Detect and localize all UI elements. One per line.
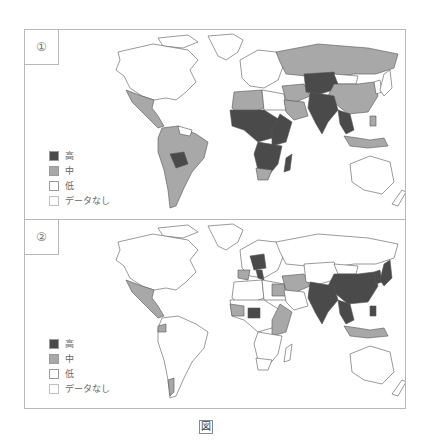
legend-label-low: 低 xyxy=(65,367,74,380)
indonesia xyxy=(344,326,388,338)
swatch-high xyxy=(49,339,59,349)
mongolia xyxy=(334,264,358,274)
swatch-no-data xyxy=(49,384,59,394)
south-america xyxy=(158,126,208,208)
legend-item-high: 高 xyxy=(49,148,110,163)
legend-2: 高 中 低 データなし xyxy=(49,336,110,396)
world-map-1 xyxy=(58,30,405,218)
new-zealand xyxy=(392,380,405,396)
australia xyxy=(350,346,394,384)
legend-item-high: 高 xyxy=(49,336,110,351)
panel-label-2: ② xyxy=(25,220,59,255)
legend-label-medium: 中 xyxy=(65,164,74,177)
legend-item-low: 低 xyxy=(49,178,110,193)
greenland xyxy=(208,34,243,60)
south-africa xyxy=(256,168,272,180)
panel-label-1: ① xyxy=(25,30,59,65)
legend-item-no-data: データなし xyxy=(49,381,110,396)
figure-caption: 図 xyxy=(199,420,213,434)
world-map-2 xyxy=(58,220,405,408)
swatch-no-data xyxy=(49,196,59,206)
new-zealand xyxy=(392,190,405,206)
legend-1: 高 中 低 データなし xyxy=(49,148,110,208)
legend-item-no-data: データなし xyxy=(49,193,110,208)
chile-south xyxy=(168,378,174,396)
swatch-high xyxy=(49,151,59,161)
legend-label-no-data: データなし xyxy=(65,194,110,207)
russia xyxy=(276,44,398,78)
legend-label-high: 高 xyxy=(65,149,74,162)
legend-label-high: 高 xyxy=(65,337,74,350)
nigeria xyxy=(248,308,260,318)
legend-label-no-data: データなし xyxy=(65,382,110,395)
indonesia xyxy=(344,136,388,148)
south-asia xyxy=(308,282,338,324)
mongolia xyxy=(334,74,358,84)
swatch-medium xyxy=(49,166,59,176)
arabian-peninsula xyxy=(284,290,308,310)
legend-item-low: 低 xyxy=(49,366,110,381)
arabian-peninsula xyxy=(284,100,308,120)
legend-item-medium: 中 xyxy=(49,163,110,178)
philippines xyxy=(370,306,376,316)
map-panel-2: ② xyxy=(24,219,406,409)
west-africa-coast xyxy=(230,304,244,316)
egypt-libya xyxy=(262,90,286,110)
greenland xyxy=(208,224,243,250)
philippines xyxy=(370,116,376,126)
swatch-low xyxy=(49,369,59,379)
iberia xyxy=(238,270,250,280)
japan xyxy=(380,260,392,286)
swatch-medium xyxy=(49,354,59,364)
map-panel-1: ① xyxy=(24,29,406,220)
madagascar xyxy=(284,154,292,172)
australia xyxy=(350,156,394,194)
south-asia xyxy=(308,92,338,134)
japan xyxy=(380,70,392,96)
legend-item-medium: 中 xyxy=(49,351,110,366)
swatch-low xyxy=(49,181,59,191)
legend-label-low: 低 xyxy=(65,179,74,192)
madagascar xyxy=(284,344,292,362)
russia xyxy=(276,234,398,268)
south-africa xyxy=(256,358,272,370)
legend-label-medium: 中 xyxy=(65,352,74,365)
